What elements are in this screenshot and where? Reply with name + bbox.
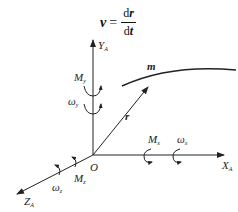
wz-label: ωz <box>52 182 62 194</box>
mx-label: Mx <box>148 134 160 146</box>
y-axis-label: YA <box>98 40 108 52</box>
mz-label: Mz <box>74 173 86 185</box>
wy-label: ωy <box>68 96 78 108</box>
coordinate-diagram <box>0 0 238 212</box>
z-axis-label: ZA <box>24 196 34 208</box>
curve-m-label: m <box>147 61 156 72</box>
wx-rotation-icon <box>173 149 181 162</box>
vector-r-label: r <box>125 111 129 122</box>
trajectory-curve <box>122 69 236 86</box>
origin-label: O <box>90 162 98 173</box>
my-label: My <box>74 72 86 84</box>
x-axis-label: XA <box>222 160 232 172</box>
mx-rotation-icon <box>144 149 152 162</box>
position-vector <box>93 87 148 155</box>
wx-label: ωx <box>177 134 187 146</box>
